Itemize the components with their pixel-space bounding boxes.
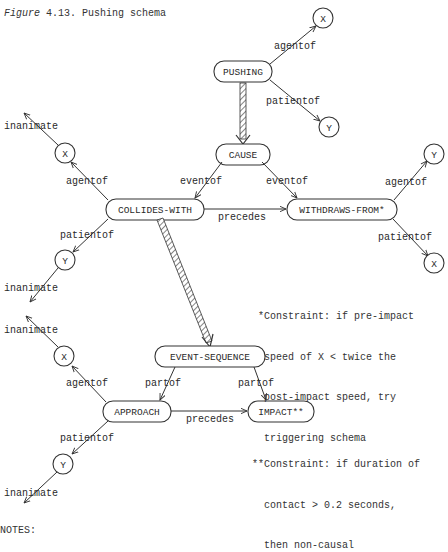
edge-label-precedes: precedes [218,212,266,223]
constraint-2-line: contact > 0.2 seconds, [252,499,420,513]
edge-label-agentof: agentof [385,177,427,188]
edge-label-agentof: agentof [274,41,316,52]
constraint-1-line: speed of X < twice the [258,351,414,365]
edge-label-inanimate: inanimate [4,121,58,132]
constraint-note-2: **Constraint: if duration of contact > 0… [252,431,420,552]
edge-label-agentof: agentof [66,378,108,389]
node-x-label: X [61,352,67,363]
edge-label-inanimate: inanimate [4,325,58,336]
edge-label-eventof-left: eventof [180,176,222,187]
hatched-arrow-pushing-cause [236,83,250,144]
node-withdraws-from-label: WITHDRAWS-FROM* [299,205,385,216]
constraint-2-line: then non-causal [252,539,420,552]
constraint-2-line: **Constraint: if duration of [252,458,420,472]
node-x-label: X [431,259,437,270]
node-pushing-label: PUSHING [223,67,263,78]
edge-label-patientof: patientof [60,433,114,444]
node-event-sequence-label: EVENT-SEQUENCE [170,352,250,363]
node-y-label: Y [326,123,332,134]
collides-with-cluster: COLLIDES-WITH agentof X inanimate patien… [4,113,204,302]
node-collides-with-label: COLLIDES-WITH [118,205,192,216]
pushing-cluster: agentof patientof X Y PUSHING [214,8,339,137]
node-x-label: X [320,14,326,25]
edge-label-patientof: patientof [60,230,114,241]
node-y-label: Y [62,256,68,267]
node-approach-label: APPROACH [114,407,160,418]
node-cause-label: CAUSE [229,150,258,161]
edge-label-inanimate: inanimate [4,283,58,294]
hatched-arrow-collides-event-sequence [157,218,213,347]
edge-label-precedes: precedes [186,414,234,425]
node-y-label: Y [431,150,437,161]
node-x-label: X [62,149,68,160]
edge-label-patientof: patientof [266,96,320,107]
withdraws-from-cluster: WITHDRAWS-FROM* agentof Y patientof X [287,144,444,273]
approach-cluster: APPROACH agentof X inanimate patientof Y… [4,316,171,503]
edge-label-agentof: agentof [66,176,108,187]
edge-label-eventof-right: eventof [266,176,308,187]
notes-footer: NOTES: [0,524,36,538]
edge-label-partof-left: partof [145,378,181,389]
constraint-1-line: post-impact speed, try [258,391,414,405]
edge-label-inanimate: inanimate [4,488,58,499]
constraint-1-line: *Constraint: if pre-impact [258,310,414,324]
edge-label-patientof: patientof [378,232,432,243]
node-y-label: Y [60,460,66,471]
